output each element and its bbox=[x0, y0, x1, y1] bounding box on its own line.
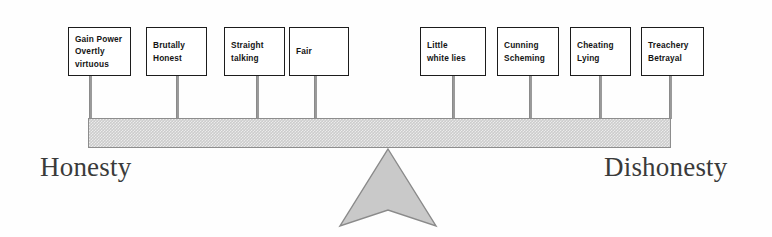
fulcrum-arrow-icon bbox=[336, 148, 440, 228]
node-label-line: Scheming bbox=[504, 52, 545, 65]
node-label-line: Cheating bbox=[577, 39, 614, 52]
scale-label-dishonesty: Dishonesty bbox=[604, 152, 728, 183]
node-stem bbox=[176, 76, 179, 119]
node-box-brutally-honest[interactable]: BrutallyHonest bbox=[146, 27, 207, 76]
node-label-line: Overtly bbox=[75, 45, 105, 58]
node-label-line: Brutally bbox=[153, 39, 185, 52]
node-label-line: Fair bbox=[296, 45, 312, 58]
node-label-line: Cunning bbox=[504, 39, 539, 52]
node-stem bbox=[599, 76, 602, 119]
node-label-line: Lying bbox=[577, 52, 600, 65]
node-box-treachery-betrayal[interactable]: TreacheryBetrayal bbox=[641, 27, 704, 76]
node-box-cheating-lying[interactable]: CheatingLying bbox=[570, 27, 631, 76]
node-box-little-white-lies[interactable]: Littlewhite lies bbox=[420, 27, 486, 76]
node-stem bbox=[669, 76, 672, 119]
node-stem bbox=[314, 76, 317, 119]
node-label-line: talking bbox=[231, 52, 259, 65]
node-label-line: Betrayal bbox=[648, 52, 682, 65]
node-box-straight-talking[interactable]: Straighttalking bbox=[224, 27, 285, 76]
node-label-line: Gain Power bbox=[75, 33, 122, 46]
node-label-line: Treachery bbox=[648, 39, 689, 52]
node-label-line: Honest bbox=[153, 52, 182, 65]
diagram-canvas: Gain PowerOvertlyvirtuousBrutallyHonestS… bbox=[0, 0, 772, 237]
node-label-line: virtuous bbox=[75, 58, 109, 71]
balance-beam bbox=[88, 118, 671, 148]
node-stem bbox=[256, 76, 259, 119]
node-box-gain-power-overtly-virtuous[interactable]: Gain PowerOvertlyvirtuous bbox=[68, 27, 131, 76]
node-box-fair[interactable]: Fair bbox=[289, 27, 349, 76]
node-label-line: Little bbox=[427, 39, 448, 52]
node-stem bbox=[452, 76, 455, 119]
node-stem bbox=[89, 76, 92, 119]
node-label-line: Straight bbox=[231, 39, 264, 52]
node-label-line: white lies bbox=[427, 52, 466, 65]
scale-label-honesty: Honesty bbox=[40, 152, 131, 183]
node-box-cunning-scheming[interactable]: CunningScheming bbox=[497, 27, 559, 76]
node-stem bbox=[529, 76, 532, 119]
